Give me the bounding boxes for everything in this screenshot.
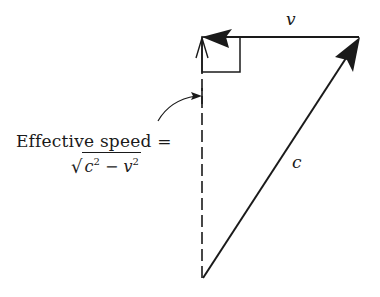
formula-minus: −: [105, 157, 118, 176]
effective-speed-formula: √c2 − v2: [71, 152, 141, 177]
sqrt-icon: √: [71, 156, 82, 177]
vector-c-arrowhead-icon: [335, 37, 360, 72]
radicand: c2 − v2: [82, 152, 140, 176]
effective-speed-label: Effective speed =: [16, 131, 172, 151]
label-c: c: [292, 152, 302, 172]
formula-exp-1: 2: [93, 156, 99, 167]
label-v: v: [286, 9, 296, 29]
vector-c-line: [203, 52, 350, 278]
formula-exp-2: 2: [132, 156, 138, 167]
sqrt-expression: √c2 − v2: [71, 152, 141, 177]
pointer-curve: [158, 96, 196, 121]
vector-v-arrowhead-icon: [202, 29, 232, 48]
